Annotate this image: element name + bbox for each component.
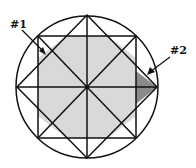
label-region-1: #1 [10,19,27,30]
geometry-diagram [0,0,196,168]
center-point [85,85,89,89]
arrow-2-head [147,67,155,75]
label-region-2: #2 [170,45,187,56]
